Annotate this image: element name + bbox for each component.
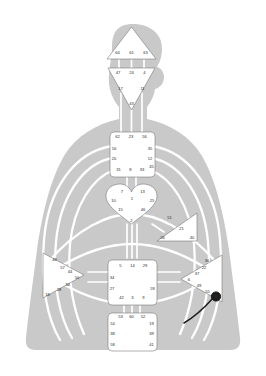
- gate-number[interactable]: 46: [141, 207, 146, 212]
- gate-number[interactable]: 38: [110, 331, 115, 336]
- gate-number[interactable]: 53: [118, 314, 123, 319]
- gate-number[interactable]: 15: [118, 207, 123, 212]
- gate-number[interactable]: 14: [130, 263, 135, 268]
- bodygraph-diagram: 6461634724417114362235616352012318334571…: [0, 0, 266, 376]
- gate-number[interactable]: 22: [202, 265, 207, 270]
- gate-number[interactable]: 55: [205, 289, 210, 294]
- gate-number[interactable]: 50: [75, 275, 80, 280]
- gate-number[interactable]: 29: [143, 263, 148, 268]
- gate-number[interactable]: 12: [148, 156, 153, 161]
- gate-number[interactable]: 10: [111, 198, 116, 203]
- gate-number[interactable]: 56: [142, 134, 147, 139]
- gate-number[interactable]: 44: [68, 269, 73, 274]
- gate-number[interactable]: 41: [149, 342, 154, 347]
- gate-number[interactable]: 61: [129, 50, 134, 55]
- gate-number[interactable]: 27: [110, 286, 115, 291]
- gate-number[interactable]: 45: [149, 164, 154, 169]
- gate-number[interactable]: 11: [140, 86, 145, 91]
- gate-number[interactable]: 47: [116, 70, 121, 75]
- gate-number[interactable]: 23: [129, 134, 134, 139]
- gate-number[interactable]: 31: [116, 167, 121, 172]
- gate-number[interactable]: 21: [179, 226, 184, 231]
- gate-number[interactable]: 13: [140, 189, 145, 194]
- activation-gate-labels: 30: [214, 294, 219, 299]
- gate-number[interactable]: 51: [167, 215, 172, 220]
- gate-number[interactable]: 57: [60, 265, 65, 270]
- gate-number[interactable]: 62: [115, 134, 120, 139]
- gate-number[interactable]: 33: [140, 167, 145, 172]
- gate-number[interactable]: 26: [160, 235, 165, 240]
- gate-number[interactable]: 64: [115, 50, 120, 55]
- gate-number[interactable]: 16: [112, 146, 117, 151]
- gate-number[interactable]: 49: [197, 283, 202, 288]
- gate-number[interactable]: 32: [65, 282, 70, 287]
- gate-number[interactable]: 25: [150, 198, 155, 203]
- gate-number[interactable]: 60: [129, 314, 134, 319]
- gate-number[interactable]: 24: [129, 70, 134, 75]
- gate-number[interactable]: 42: [119, 295, 124, 300]
- gate-number[interactable]: 17: [118, 86, 123, 91]
- activated-gate-number[interactable]: 30: [214, 294, 219, 299]
- gate-number[interactable]: 34: [110, 275, 115, 280]
- gate-number[interactable]: 59: [150, 286, 155, 291]
- gate-number[interactable]: 18: [45, 292, 50, 297]
- gate-number[interactable]: 48: [52, 257, 57, 262]
- gate-number[interactable]: 40: [190, 235, 195, 240]
- gate-number[interactable]: 28: [57, 287, 62, 292]
- gate-number[interactable]: 36: [205, 258, 210, 263]
- gate-number[interactable]: 35: [148, 146, 153, 151]
- gate-number[interactable]: 58: [110, 342, 115, 347]
- gate-number[interactable]: 63: [143, 50, 148, 55]
- gate-number[interactable]: 39: [149, 331, 154, 336]
- gate-number[interactable]: 20: [112, 156, 117, 161]
- gate-number[interactable]: 54: [110, 321, 115, 326]
- gate-number[interactable]: 43: [129, 101, 134, 106]
- gate-number[interactable]: 19: [149, 321, 154, 326]
- gate-number[interactable]: 37: [195, 271, 200, 276]
- gate-number[interactable]: 52: [141, 314, 146, 319]
